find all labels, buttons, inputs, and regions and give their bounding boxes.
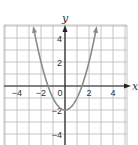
x-axis-label: x [132, 80, 138, 93]
y-tick-label: 4 [57, 34, 62, 44]
curve-arrow-right-icon [93, 26, 98, 33]
parabola-graph: −4−2024−4−224 x y [0, 0, 138, 145]
axes [4, 25, 131, 145]
x-axis-arrow-icon [124, 84, 131, 89]
y-axis-label: y [61, 12, 69, 25]
y-tick-label: −4 [52, 130, 62, 140]
x-tick-label: −2 [36, 88, 46, 98]
curve-arrow-left-icon [32, 26, 37, 33]
x-tick-label: 2 [86, 88, 91, 98]
x-tick-label: 4 [110, 88, 115, 98]
x-tick-label: 0 [57, 88, 62, 98]
y-tick-label: −2 [52, 106, 62, 116]
y-tick-label: 2 [57, 58, 62, 68]
x-tick-label: −4 [12, 88, 22, 98]
